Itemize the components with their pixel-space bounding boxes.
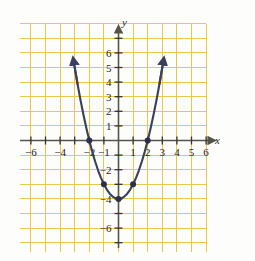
x-axis-label: x (214, 134, 220, 146)
data-point (130, 181, 136, 187)
x-tick-label: −6 (25, 146, 37, 158)
y-tick-label: 1 (106, 120, 112, 132)
y-tick-label: 6 (106, 47, 112, 59)
y-tick-label: 5 (106, 62, 112, 74)
figure-background (0, 0, 255, 261)
y-tick-label: 2 (106, 105, 112, 117)
y-tick-label: −2 (100, 164, 112, 176)
y-axis-label: y (121, 16, 127, 28)
x-tick-label: 4 (174, 146, 180, 158)
coordinate-plane-chart: −6−4−2−1123456 654321−2−4−6 x y (0, 0, 255, 261)
x-tick-label: −4 (54, 146, 66, 158)
x-tick-label: −1 (98, 146, 110, 158)
y-tick-label: −6 (100, 222, 112, 234)
x-tick-label: 1 (130, 146, 136, 158)
x-tick-label: 3 (160, 146, 166, 158)
x-tick-label: 5 (189, 146, 195, 158)
data-point (101, 181, 107, 187)
y-tick-label: 4 (106, 76, 112, 88)
data-point (86, 138, 92, 144)
data-point (116, 196, 122, 202)
y-tick-label: 3 (106, 91, 112, 103)
data-point (145, 138, 151, 144)
x-tick-label: 6 (203, 146, 209, 158)
graph-figure: −6−4−2−1123456 654321−2−4−6 x y (0, 0, 255, 261)
